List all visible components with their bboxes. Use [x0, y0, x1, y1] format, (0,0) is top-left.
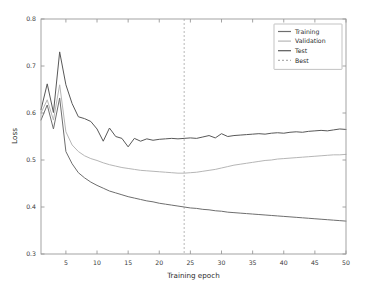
x-tick-label: 5 [64, 259, 68, 266]
legend-label-test: Test [294, 47, 308, 54]
y-tick-label: 0.3 [26, 250, 36, 257]
y-tick-label: 0.5 [26, 156, 36, 163]
legend-label-validation: Validation [295, 37, 326, 44]
x-tick-label: 45 [311, 259, 319, 266]
loss-line-chart: 51015202530354045500.30.40.50.60.70.8 Tr… [0, 0, 368, 298]
chart-figure: 51015202530354045500.30.40.50.60.70.8 Tr… [0, 0, 368, 298]
y-tick-label: 0.6 [26, 109, 36, 116]
x-tick-label: 25 [186, 259, 194, 266]
legend-label-best: Best [295, 57, 309, 64]
y-tick-label: 0.8 [26, 15, 36, 22]
legend-label-training: Training [294, 28, 319, 36]
y-tick-label: 0.4 [26, 203, 36, 210]
x-tick-label: 15 [124, 259, 132, 266]
y-tick-label: 0.7 [26, 62, 36, 69]
x-tick-label: 30 [218, 259, 226, 266]
x-tick-label: 50 [342, 259, 350, 266]
y-axis-label: Loss [10, 128, 19, 144]
x-tick-label: 35 [249, 259, 257, 266]
x-tick-label: 40 [280, 259, 288, 266]
x-tick-label: 20 [155, 259, 163, 266]
x-axis-label: Training epoch [166, 271, 220, 280]
x-tick-label: 10 [93, 259, 101, 266]
chart-legend: TrainingValidationTestBest [274, 24, 342, 69]
